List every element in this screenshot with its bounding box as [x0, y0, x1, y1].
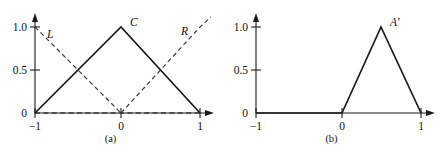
curve-label-L: L	[46, 28, 53, 40]
curve-A-prime	[256, 27, 421, 113]
x-tick-label-0-a: 0	[118, 120, 124, 132]
x-tick-label-0-b: 0	[339, 120, 345, 132]
x-tick-label-1-b: 1	[418, 120, 424, 132]
figure-two-panel-fuzzy-membership: 1.0 0.5 0 −1 0 1 L C R (a)	[0, 0, 442, 154]
y-tick-label-1.0-a: 1.0	[13, 21, 28, 33]
y-tick-label-0.5-b: 0.5	[234, 64, 249, 76]
y-axis-arrowhead-a	[32, 13, 38, 22]
y-tick-label-0-a: 0	[21, 107, 27, 119]
panel-a: 1.0 0.5 0 −1 0 1 L C R (a)	[0, 0, 221, 154]
curve-R	[121, 17, 211, 113]
curve-label-C: C	[130, 16, 138, 28]
panel-a-plot: 1.0 0.5 0 −1 0 1 L C R	[0, 0, 221, 154]
x-tick-label-1-a: 1	[197, 120, 203, 132]
y-tick-label-0-b: 0	[242, 107, 248, 119]
caption-b: (b)	[221, 133, 442, 144]
curve-label-A-prime: A′	[389, 16, 400, 28]
curve-label-R: R	[180, 25, 188, 37]
x-tick-label-neg1-a: −1	[29, 120, 41, 132]
x-axis-arrowhead-b	[426, 110, 435, 116]
panel-b-plot: 1.0 0.5 0 −1 0 1 A′	[221, 0, 442, 154]
panel-b: 1.0 0.5 0 −1 0 1 A′ (b)	[221, 0, 442, 154]
y-axis-arrowhead-b	[253, 13, 259, 22]
y-tick-label-1.0-b: 1.0	[234, 21, 249, 33]
x-tick-label-neg1-b: −1	[250, 120, 262, 132]
x-axis-arrowhead-a	[205, 110, 214, 116]
caption-a: (a)	[0, 133, 221, 144]
y-tick-label-0.5-a: 0.5	[13, 64, 28, 76]
curve-C	[35, 27, 200, 113]
